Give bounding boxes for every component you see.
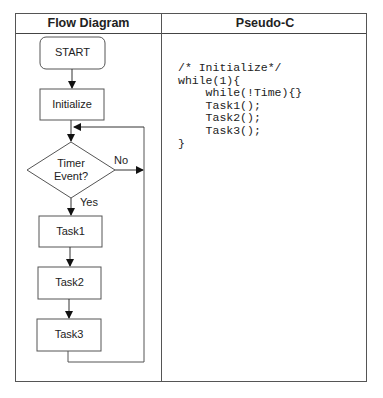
decision-line2: Event?	[54, 170, 88, 182]
code-line: Task3();	[178, 125, 302, 138]
decision-label: Timer Event?	[41, 157, 101, 183]
task3-label: Task3	[37, 328, 101, 340]
code-line: while(!Time){}	[178, 87, 302, 100]
decision-line1: Timer	[57, 157, 85, 169]
task1-label: Task1	[39, 225, 102, 237]
code-line: /* Initialize*/	[178, 62, 302, 75]
start-label: START	[40, 46, 105, 58]
pseudo-c-code: /* Initialize*/while(1){ while(!Time){} …	[178, 62, 302, 150]
task2-label: Task2	[38, 276, 101, 288]
no-label: No	[114, 154, 128, 166]
initialize-label: Initialize	[40, 98, 104, 110]
code-line: }	[178, 138, 302, 151]
yes-label: Yes	[80, 196, 98, 208]
